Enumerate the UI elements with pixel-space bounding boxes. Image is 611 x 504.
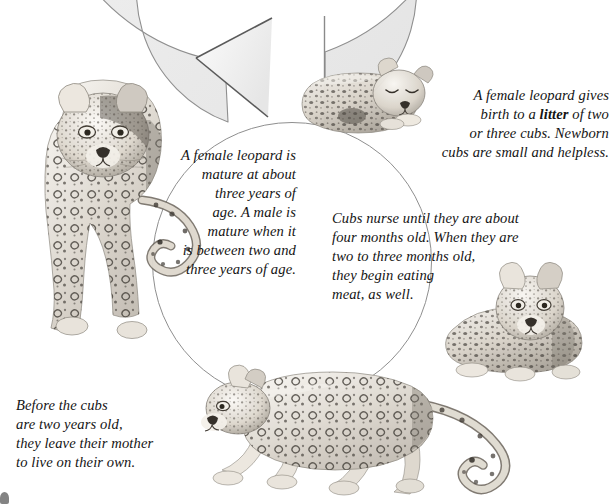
caption-birth-keyword: litter: [540, 106, 569, 122]
corner-artifact: [0, 492, 9, 504]
caption-nursing: Cubs nurse until they are about four mon…: [332, 209, 542, 304]
caption-leaving: Before the cubs are two years old, they …: [16, 396, 202, 472]
caption-maturity: A female leopard is mature at about thre…: [138, 146, 296, 279]
captions-layer: A female leopard gives birth to a litter…: [0, 0, 611, 504]
leopard-life-cycle-diagram: A female leopard gives birth to a litter…: [0, 0, 611, 504]
caption-birth: A female leopard gives birth to a litter…: [429, 86, 609, 162]
